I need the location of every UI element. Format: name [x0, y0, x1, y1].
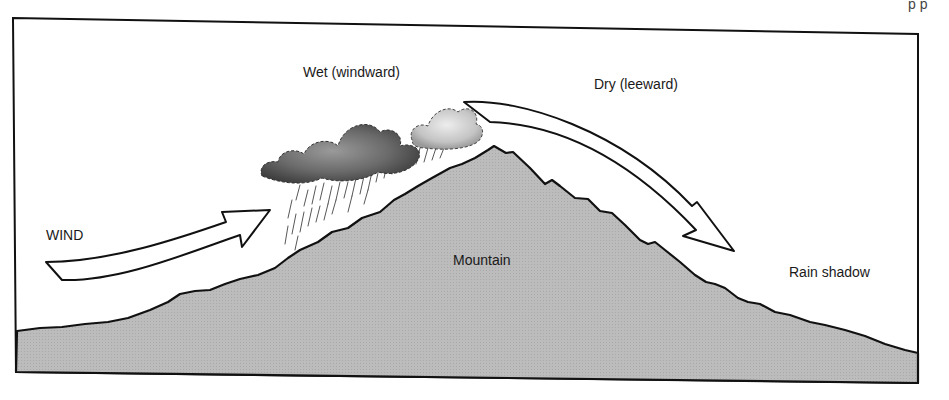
page-fragment-text: p p [908, 0, 927, 12]
mountain-label: Mountain [453, 252, 511, 268]
windward-label: Wet (windward) [303, 64, 400, 80]
leeward-label: Dry (leeward) [594, 76, 678, 92]
wind-label: WIND [46, 227, 83, 243]
rain-shadow-diagram [0, 0, 949, 400]
rain-shadow-label: Rain shadow [789, 264, 870, 280]
